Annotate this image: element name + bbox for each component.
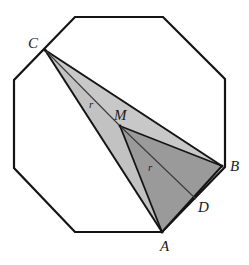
point-c-dot: [43, 48, 46, 51]
point-a-dot: [160, 230, 163, 233]
point-b-dot: [220, 164, 223, 167]
point-m-dot: [119, 125, 122, 128]
segment-label-r-ma: r: [148, 162, 152, 173]
geometry-figure: C M B D A r r: [0, 0, 249, 265]
point-label-b: B: [230, 159, 239, 174]
segment-label-r-cm: r: [89, 99, 93, 110]
point-label-d: D: [198, 200, 209, 215]
point-label-a: A: [160, 239, 169, 254]
point-label-m: M: [114, 108, 127, 123]
point-label-c: C: [28, 36, 38, 51]
